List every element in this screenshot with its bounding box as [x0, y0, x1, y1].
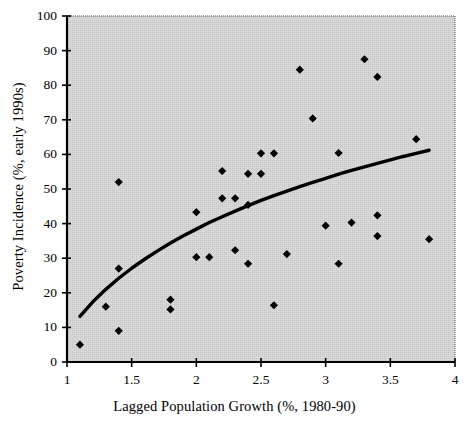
- x-tick-label: 1.5: [112, 373, 152, 387]
- x-tick-label: 1: [47, 373, 87, 387]
- y-tick-label: 50: [23, 182, 57, 196]
- y-tick-label: 30: [23, 251, 57, 265]
- y-tick-label: 60: [23, 147, 57, 161]
- plot-texture: [67, 16, 455, 362]
- y-tick-label: 10: [23, 320, 57, 334]
- y-tick-label: 0: [23, 355, 57, 369]
- x-tick-label: 3: [306, 373, 346, 387]
- x-tick-label: 4: [435, 373, 469, 387]
- y-tick-label: 70: [23, 113, 57, 127]
- x-tick-label: 2.5: [241, 373, 281, 387]
- plot-canvas: [0, 0, 469, 429]
- y-tick-label: 80: [23, 78, 57, 92]
- x-tick-label: 3.5: [370, 373, 410, 387]
- y-tick-label: 100: [23, 9, 57, 23]
- y-tick-label: 40: [23, 217, 57, 231]
- x-tick-label: 2: [176, 373, 216, 387]
- y-tick-label: 90: [23, 44, 57, 58]
- scatter-chart-figure: Poverty Incidence (%, early 1990s) Lagge…: [0, 0, 469, 429]
- y-tick-label: 20: [23, 286, 57, 300]
